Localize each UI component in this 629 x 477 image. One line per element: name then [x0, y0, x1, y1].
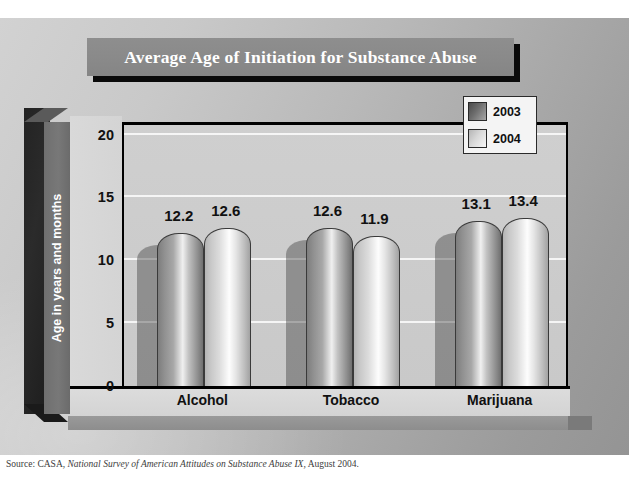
bar-value-label: 11.9 — [360, 210, 388, 227]
bar-alcohol-2004[interactable] — [204, 228, 251, 386]
y-axis-title: Age in years and months — [44, 122, 70, 414]
chart-floor-edge — [68, 416, 590, 430]
plot-area — [122, 122, 568, 386]
source-suffix: August 2004. — [308, 459, 359, 469]
legend-label-2003: 2003 — [493, 105, 521, 119]
legend-swatch-2003-icon — [468, 102, 487, 121]
source-title: National Survey of American Attitudes on… — [68, 459, 306, 469]
gridline — [124, 195, 566, 197]
bar-value-label: 13.1 — [462, 195, 491, 212]
bar-tobacco-2003[interactable] — [306, 228, 353, 386]
legend-item-2003[interactable]: 2003 — [468, 102, 532, 121]
y-axis-tick-label: 15 — [98, 189, 114, 205]
y-axis-tick-label: 20 — [98, 127, 114, 143]
y-axis-tick-gutter — [70, 116, 122, 420]
legend-label-2004: 2004 — [493, 132, 521, 146]
y-axis-tick-label: 0 — [106, 378, 114, 394]
y-axis-tick-label: 10 — [98, 252, 114, 268]
bar-value-label: 12.6 — [313, 202, 342, 219]
bar-marijuana-2003[interactable] — [455, 221, 502, 386]
title-plaque: Average Age of Initiation for Substance … — [87, 38, 514, 76]
x-axis-category-label: Tobacco — [323, 392, 380, 408]
chart-title: Average Age of Initiation for Substance … — [124, 47, 477, 68]
chart-floor-corner-bevel — [568, 416, 592, 430]
bar-alcohol-2003[interactable] — [157, 233, 204, 386]
source-note: Source: CASA, National Survey of America… — [6, 459, 359, 469]
bar-value-label: 12.6 — [211, 202, 240, 219]
source-prefix: Source: CASA, — [6, 459, 65, 469]
bar-tobacco-2004[interactable] — [353, 236, 400, 386]
bar-value-label: 13.4 — [509, 192, 538, 209]
legend-swatch-2004-icon — [468, 129, 487, 148]
legend[interactable]: 2003 2004 — [463, 96, 537, 154]
y-axis-tick-label: 5 — [106, 315, 114, 331]
legend-item-2004[interactable]: 2004 — [468, 129, 532, 148]
chart-screenshot: Average Age of Initiation for Substance … — [0, 0, 629, 477]
x-axis-category-label: Marijuana — [467, 392, 532, 408]
x-axis-category-label: Alcohol — [177, 392, 228, 408]
bar-marijuana-2004[interactable] — [502, 218, 549, 386]
bar-value-label: 12.2 — [164, 207, 193, 224]
